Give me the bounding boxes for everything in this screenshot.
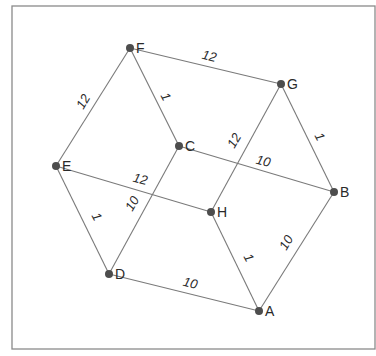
diagram-frame	[12, 6, 375, 349]
node-dot	[207, 208, 215, 216]
node-dot	[330, 188, 338, 196]
edge-C-B	[179, 146, 334, 192]
nodes-layer: ABCDEFGH	[52, 40, 349, 319]
node-label: A	[265, 303, 275, 319]
edge-H-A	[211, 212, 259, 311]
edge-weight-G-H: 12	[224, 130, 245, 151]
node-G: G	[277, 76, 298, 92]
node-D: D	[105, 266, 125, 282]
edge-C-D	[109, 146, 179, 274]
graph-diagram: 12121112101012111010 ABCDEFGH	[0, 0, 376, 356]
edge-weight-C-B: 10	[254, 152, 272, 170]
node-label: H	[217, 204, 227, 220]
edge-weight-D-A: 10	[181, 274, 199, 292]
edge-weight-H-A: 1	[241, 251, 258, 264]
edge-weight-F-G: 12	[200, 47, 218, 65]
edge-weight-E-D: 1	[89, 210, 106, 223]
node-C: C	[175, 138, 195, 154]
edge-F-E	[56, 48, 130, 166]
node-label: G	[287, 76, 298, 92]
node-dot	[52, 162, 60, 170]
edge-G-B	[281, 84, 334, 192]
node-dot	[175, 142, 183, 150]
edge-weight-F-E: 12	[73, 91, 94, 112]
node-H: H	[207, 204, 227, 220]
node-A: A	[255, 303, 275, 319]
node-B: B	[330, 184, 349, 200]
node-label: B	[340, 184, 349, 200]
edge-weight-E-H: 12	[131, 170, 149, 188]
node-dot	[126, 44, 134, 52]
edge-weight-G-B: 1	[312, 130, 329, 143]
node-dot	[277, 80, 285, 88]
edge-weight-B-A: 10	[276, 232, 297, 253]
node-dot	[255, 307, 263, 315]
node-dot	[105, 270, 113, 278]
edge-weight-C-D: 10	[122, 193, 143, 214]
node-label: C	[185, 138, 195, 154]
node-F: F	[126, 40, 145, 56]
node-label: D	[115, 266, 125, 282]
edge-G-H	[211, 84, 281, 212]
node-label: F	[136, 40, 145, 56]
edge-B-A	[259, 192, 334, 311]
edge-weight-F-C: 1	[158, 90, 175, 103]
edge-E-D	[56, 166, 109, 274]
node-E: E	[52, 158, 71, 174]
node-label: E	[62, 158, 71, 174]
